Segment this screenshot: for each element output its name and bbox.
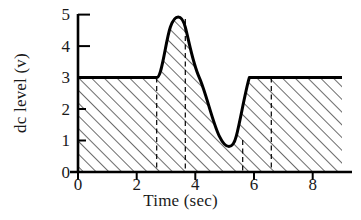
dc-level-waveform-figure: 0 1 2 3 4 5 0 2 4 6 8 dc level (v) Time … <box>0 0 361 220</box>
y-tick-label-3: 3 <box>52 68 70 88</box>
y-tick-label-1: 1 <box>52 131 70 151</box>
y-tick-label-4: 4 <box>52 37 70 57</box>
x-axis-title: Time (sec) <box>0 191 361 211</box>
waveform-fill <box>78 17 342 172</box>
y-axis-title: dc level (v) <box>11 28 31 158</box>
y-tick-label-5: 5 <box>52 5 70 25</box>
y-tick-label-2: 2 <box>52 100 70 120</box>
